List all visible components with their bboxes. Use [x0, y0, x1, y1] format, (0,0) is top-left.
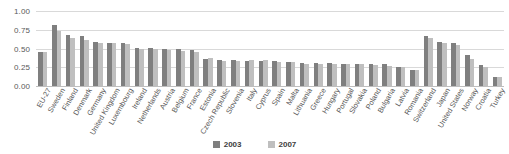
bar-group [408, 11, 422, 86]
chart-legend: 20032007 [0, 140, 509, 149]
bar-2007 [497, 77, 502, 86]
bar-2007 [359, 64, 364, 86]
bar-2007 [236, 61, 241, 86]
bar-group [132, 11, 146, 86]
bar-2007 [346, 64, 351, 86]
bar-group [477, 11, 491, 86]
bar-2007 [208, 58, 213, 87]
bar-group [394, 11, 408, 86]
bar-2007 [153, 49, 158, 87]
bar-group [353, 11, 367, 86]
legend-swatch-icon [213, 141, 220, 148]
bar-group [421, 11, 435, 86]
bar-group [50, 11, 64, 86]
bar-2007 [304, 64, 309, 87]
bar-group [366, 11, 380, 86]
bar-group [270, 11, 284, 86]
bar-group [242, 11, 256, 86]
bar-group [105, 11, 119, 86]
bar-2007 [373, 65, 378, 86]
bar-2007 [401, 67, 406, 86]
bar-2007 [442, 43, 447, 86]
bar-group [490, 11, 504, 86]
y-axis-tick-label: 0.00 [14, 82, 30, 91]
bar-group [463, 11, 477, 86]
bar-2007 [249, 60, 254, 86]
bar-2007 [167, 50, 172, 86]
bar-2007 [84, 40, 89, 86]
bar-group [174, 11, 188, 86]
bar-group [91, 11, 105, 86]
bar-group [64, 11, 78, 86]
bar-2007 [57, 31, 62, 87]
legend-label: 2007 [279, 140, 297, 149]
bar-group [229, 11, 243, 86]
bar-chart: 0.000.250.500.751.00 EU-27SwedenFinlandD… [0, 0, 509, 154]
bar-2007 [387, 66, 392, 86]
bar-2007 [428, 38, 433, 86]
bar-2007 [456, 45, 461, 86]
bar-2007 [222, 61, 227, 87]
bar-2007 [470, 59, 475, 86]
bar-group [215, 11, 229, 86]
y-axis: 0.000.250.500.751.00 [0, 0, 34, 92]
bar-group [298, 11, 312, 86]
bar-2007 [415, 70, 420, 86]
bar-group [146, 11, 160, 86]
x-axis-category-labels: EU-27SwedenFinlandDenmarkGermanyUnited K… [36, 87, 504, 137]
bar-group [284, 11, 298, 86]
legend-label: 2003 [224, 140, 242, 149]
bar-group [449, 11, 463, 86]
bar-2007 [318, 64, 323, 87]
bar-2007 [112, 43, 117, 86]
bar-group [201, 11, 215, 86]
bar-group [339, 11, 353, 86]
bar-group [187, 11, 201, 86]
legend-item-2003[interactable]: 2003 [213, 140, 242, 149]
bar-group [36, 11, 50, 86]
bar-2007 [181, 51, 186, 86]
bar-2007 [277, 62, 282, 86]
bars-layer [36, 11, 504, 86]
y-axis-tick-label: 0.25 [14, 63, 30, 72]
bar-group [380, 11, 394, 86]
bar-2007 [194, 52, 199, 87]
bar-group [160, 11, 174, 86]
bar-2007 [125, 44, 130, 86]
y-axis-tick-label: 0.50 [14, 44, 30, 53]
y-axis-tick-label: 0.75 [14, 25, 30, 34]
bar-2007 [332, 64, 337, 86]
bar-group [435, 11, 449, 86]
bar-group [325, 11, 339, 86]
legend-item-2007[interactable]: 2007 [268, 140, 297, 149]
bar-2007 [70, 38, 75, 86]
bar-group [311, 11, 325, 86]
bar-group [77, 11, 91, 86]
bar-2007 [263, 60, 268, 86]
y-axis-tick-label: 1.00 [14, 7, 30, 16]
bar-2007 [43, 52, 48, 86]
bar-group [256, 11, 270, 86]
legend-swatch-icon [268, 141, 275, 148]
bar-2007 [98, 43, 103, 87]
bar-group [119, 11, 133, 86]
bar-2007 [483, 67, 488, 87]
bar-2007 [139, 49, 144, 87]
bar-2007 [291, 62, 296, 86]
